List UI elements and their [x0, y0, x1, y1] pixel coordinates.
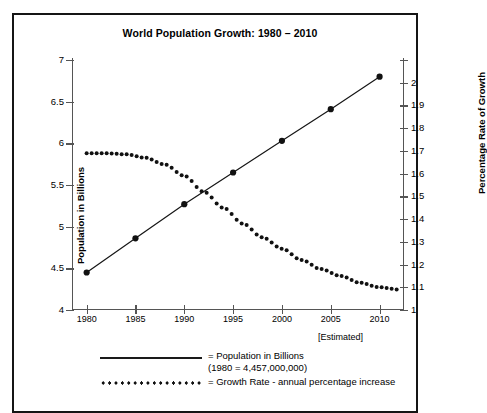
growth-rate-dot — [300, 258, 304, 262]
right-tick-label: 1.1 — [411, 281, 424, 292]
growth-rate-dot — [285, 248, 289, 252]
growth-rate-dot — [320, 267, 324, 271]
population-data-point — [328, 106, 334, 112]
growth-rate-dot — [390, 287, 394, 291]
left-tick-label: 6 — [24, 137, 64, 148]
growth-rate-dot — [115, 152, 119, 156]
population-data-point — [181, 201, 187, 207]
chart-title: World Population Growth: 1980 – 2010 — [60, 27, 380, 39]
growth-rate-dot — [385, 286, 389, 290]
growth-rate-dot — [310, 263, 314, 267]
growth-rate-dot — [265, 237, 269, 241]
growth-rate-dot — [150, 157, 154, 161]
x-tick-label: 1985 — [115, 314, 155, 324]
x-tick-label: 2005 — [311, 314, 351, 324]
right-tick-label: 1.7 — [411, 145, 424, 156]
population-data-point — [376, 74, 382, 80]
growth-rate-dot — [220, 205, 224, 209]
growth-rate-dot — [100, 151, 104, 155]
right-tick — [400, 310, 408, 311]
growth-rate-dot — [235, 218, 239, 222]
growth-rate-dot — [315, 266, 319, 270]
series-layer — [72, 60, 404, 310]
growth-rate-dot — [105, 151, 109, 155]
growth-rate-dot — [175, 170, 179, 174]
growth-rate-dot — [250, 227, 254, 231]
growth-rate-dotted-curve — [85, 151, 399, 291]
growth-rate-dot — [335, 273, 339, 277]
legend-solid-line-swatch — [100, 357, 202, 359]
growth-rate-dot — [185, 175, 189, 179]
left-tick-label: 6.5 — [24, 96, 64, 107]
growth-rate-dot — [160, 162, 164, 166]
growth-rate-dot — [340, 274, 344, 278]
growth-rate-dot — [95, 151, 99, 155]
growth-rate-dot — [345, 275, 349, 279]
population-data-point — [132, 235, 138, 241]
growth-rate-dot — [355, 280, 359, 284]
left-tick-label: 5 — [24, 221, 64, 232]
growth-rate-dot — [330, 271, 334, 275]
population-data-point — [230, 169, 236, 175]
growth-rate-dot — [365, 282, 369, 286]
right-axis-title: Percentage Rate of Growth — [476, 58, 487, 208]
growth-rate-dot — [255, 232, 259, 236]
growth-rate-dot — [280, 247, 284, 251]
growth-rate-dot — [325, 268, 329, 272]
right-tick-label: 1.9 — [411, 99, 424, 110]
growth-rate-dot — [140, 155, 144, 159]
growth-rate-dot — [120, 152, 124, 156]
growth-rate-dot — [240, 221, 244, 225]
growth-rate-dot — [260, 235, 264, 239]
legend-label-population: = Population in Billions — [208, 350, 304, 361]
x-tick-label: 1990 — [164, 314, 204, 324]
growth-rate-dot — [305, 260, 309, 264]
growth-rate-dot — [155, 160, 159, 164]
growth-rate-dot — [360, 281, 364, 285]
growth-rate-dot — [370, 284, 374, 288]
left-tick — [66, 310, 74, 311]
growth-rate-dot — [270, 240, 274, 244]
growth-rate-dot — [130, 153, 134, 157]
legend-label-growth-rate: = Growth Rate - annual percentage increa… — [208, 376, 395, 387]
left-axis-title: Population in Billions — [75, 146, 86, 286]
growth-rate-dot — [210, 195, 214, 199]
left-tick-label: 7 — [24, 54, 64, 65]
plot-area: Population in Billions Percentage Rate o… — [72, 60, 404, 310]
growth-rate-dot — [190, 179, 194, 183]
growth-rate-dot — [90, 151, 94, 155]
right-tick-label: 1.3 — [411, 236, 424, 247]
growth-rate-dot — [195, 185, 199, 189]
right-tick-label: 2 — [411, 77, 416, 88]
left-tick-label: 4 — [24, 304, 64, 315]
growth-rate-dot — [200, 189, 204, 193]
right-tick-label: 1 — [411, 304, 416, 315]
growth-rate-dot — [230, 212, 234, 216]
growth-rate-dot — [225, 207, 229, 211]
growth-rate-dot — [350, 278, 354, 282]
growth-rate-dot — [170, 166, 174, 170]
growth-rate-dot — [290, 252, 294, 256]
growth-rate-dot — [275, 245, 279, 249]
growth-rate-dot — [125, 152, 129, 156]
growth-rate-dot — [135, 154, 139, 158]
growth-rate-dot — [165, 163, 169, 167]
population-data-point — [279, 138, 285, 144]
x-tick-label: 2010 — [360, 314, 400, 324]
right-tick-label: 1.4 — [411, 213, 424, 224]
growth-rate-dot — [180, 173, 184, 177]
right-tick-label: 1.2 — [411, 259, 424, 270]
growth-rate-dot — [375, 285, 379, 289]
right-tick-label: 1.6 — [411, 168, 424, 179]
estimated-note: [Estimated] — [318, 332, 363, 342]
growth-rate-dot — [215, 201, 219, 205]
growth-rate-dot — [205, 191, 209, 195]
legend-sublabel-population-1980: (1980 = 4,457,000,000) — [208, 362, 307, 373]
right-tick-label: 1.5 — [411, 190, 424, 201]
growth-rate-dot — [395, 287, 399, 291]
left-tick-label: 4.5 — [24, 262, 64, 273]
x-tick-label: 2000 — [262, 314, 302, 324]
right-tick-label: 1.8 — [411, 122, 424, 133]
growth-rate-dot — [380, 285, 384, 289]
